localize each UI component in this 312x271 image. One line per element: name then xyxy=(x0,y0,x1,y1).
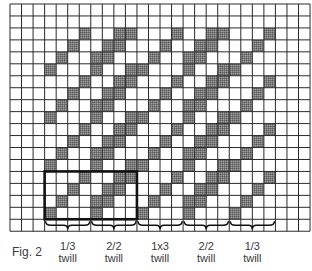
filled-cell xyxy=(183,112,195,124)
filled-cell xyxy=(218,76,230,88)
filled-cell xyxy=(102,100,114,112)
filled-cell xyxy=(183,207,195,219)
filled-cell xyxy=(218,64,230,76)
weave-grid xyxy=(0,0,312,271)
filled-cell xyxy=(229,159,241,171)
filled-cell xyxy=(241,195,253,207)
filled-cell xyxy=(137,112,149,124)
filled-cell xyxy=(206,40,218,52)
filled-cell xyxy=(125,159,137,171)
filled-cell xyxy=(195,148,207,160)
filled-cell xyxy=(125,171,137,183)
twill-word: twill xyxy=(92,252,136,264)
filled-cell xyxy=(45,159,57,171)
filled-cell xyxy=(229,112,241,124)
filled-cell xyxy=(91,112,103,124)
filled-cell xyxy=(241,100,253,112)
filled-cell xyxy=(102,183,114,195)
filled-cell xyxy=(114,124,126,136)
filled-cell xyxy=(68,40,80,52)
filled-cell xyxy=(218,28,230,40)
filled-cell xyxy=(148,148,160,160)
twill-word: twill xyxy=(46,252,90,264)
filled-cell xyxy=(102,148,114,160)
filled-cell xyxy=(218,112,230,124)
filled-cell xyxy=(102,195,114,207)
filled-cell xyxy=(91,64,103,76)
filled-cell xyxy=(56,148,68,160)
filled-cell xyxy=(183,64,195,76)
filled-cell xyxy=(264,124,276,136)
filled-cell xyxy=(114,76,126,88)
filled-cell xyxy=(183,52,195,64)
filled-cell xyxy=(56,195,68,207)
filled-cell xyxy=(241,52,253,64)
filled-cell xyxy=(102,52,114,64)
twill-label: 1/3twill xyxy=(230,240,274,264)
filled-cell xyxy=(125,76,137,88)
filled-cell xyxy=(125,124,137,136)
filled-cell xyxy=(91,100,103,112)
filled-cell xyxy=(45,112,57,124)
filled-cell xyxy=(160,183,172,195)
filled-cell xyxy=(68,88,80,100)
filled-cell xyxy=(218,159,230,171)
filled-cell xyxy=(160,88,172,100)
twill-word: twill xyxy=(184,252,228,264)
filled-cell xyxy=(264,76,276,88)
filled-cell xyxy=(206,183,218,195)
filled-cell xyxy=(125,112,137,124)
filled-cell xyxy=(241,148,253,160)
filled-cell xyxy=(148,52,160,64)
filled-cell xyxy=(195,136,207,148)
figure-caption: Fig. 2 xyxy=(12,245,42,259)
filled-cell xyxy=(102,88,114,100)
filled-cell xyxy=(68,183,80,195)
filled-cell xyxy=(183,159,195,171)
filled-cell xyxy=(79,76,91,88)
filled-cell xyxy=(114,28,126,40)
filled-cell xyxy=(137,207,149,219)
filled-cell xyxy=(160,40,172,52)
filled-cell xyxy=(102,136,114,148)
filled-cell xyxy=(195,88,207,100)
filled-cell xyxy=(206,136,218,148)
twill-label: 2/2twill xyxy=(184,240,228,264)
filled-cell xyxy=(114,40,126,52)
filled-cell xyxy=(195,52,207,64)
filled-cell xyxy=(206,28,218,40)
twill-label: 1/3twill xyxy=(46,240,90,264)
filled-cell xyxy=(206,88,218,100)
filled-cell xyxy=(79,171,91,183)
filled-cell xyxy=(160,136,172,148)
filled-cell xyxy=(195,100,207,112)
twill-label: 2/2twill xyxy=(92,240,136,264)
filled-cell xyxy=(125,64,137,76)
filled-cell xyxy=(252,136,264,148)
filled-cell xyxy=(195,195,207,207)
filled-cell xyxy=(91,159,103,171)
filled-cell xyxy=(264,28,276,40)
filled-cell xyxy=(264,171,276,183)
filled-cell xyxy=(45,64,57,76)
filled-cell xyxy=(195,183,207,195)
filled-cell xyxy=(137,64,149,76)
filled-cell xyxy=(172,76,184,88)
filled-cell xyxy=(114,183,126,195)
filled-cell xyxy=(183,195,195,207)
filled-cell xyxy=(206,124,218,136)
twill-ratio: 1/3 xyxy=(46,240,90,252)
filled-cell xyxy=(252,40,264,52)
filled-cell xyxy=(195,40,207,52)
filled-cell xyxy=(91,195,103,207)
filled-cell xyxy=(252,183,264,195)
filled-cell xyxy=(229,207,241,219)
twill-ratio: 1/3 xyxy=(230,240,274,252)
twill-ratio: 2/2 xyxy=(184,240,228,252)
weave-draft-figure: 1/3twill2/2twill1x3twill2/2twill1/3twill… xyxy=(0,0,312,271)
filled-cell xyxy=(148,100,160,112)
filled-cell xyxy=(252,88,264,100)
filled-cell xyxy=(148,195,160,207)
filled-cell xyxy=(137,159,149,171)
filled-cell xyxy=(172,28,184,40)
